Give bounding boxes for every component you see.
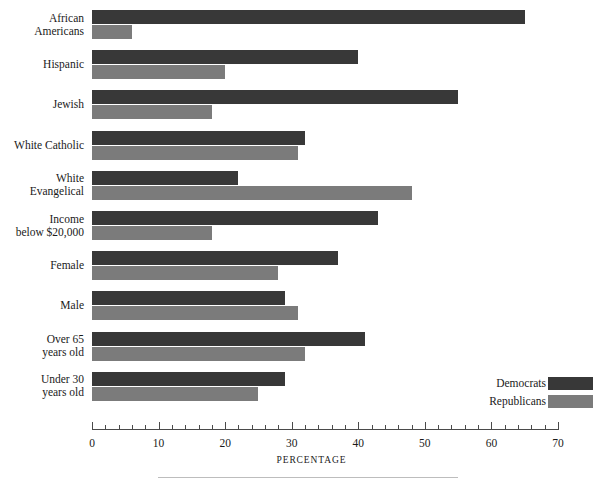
category-label: Hispanic (0, 58, 84, 71)
x-axis-minor-tick (372, 425, 373, 430)
x-axis-major-tick (358, 422, 359, 430)
x-axis-minor-tick (478, 425, 479, 430)
legend-label-republicans: Republicans (489, 394, 546, 408)
plot-area (92, 10, 558, 428)
x-axis-minor-tick (451, 425, 452, 430)
x-axis-minor-tick (132, 425, 133, 430)
category-label-line: Income (0, 213, 84, 226)
x-axis-minor-tick (238, 425, 239, 430)
x-axis-minor-tick (265, 425, 266, 430)
bar-republicans (92, 186, 412, 200)
bar-democrats (92, 50, 358, 64)
bar-democrats (92, 131, 305, 145)
x-axis-minor-tick (252, 425, 253, 430)
x-axis-minor-tick (518, 425, 519, 430)
x-axis-title-text: PERCENTAGE (263, 455, 347, 465)
bar-group (92, 251, 558, 285)
bar-republicans (92, 25, 132, 39)
bar-group (92, 211, 558, 245)
bar-democrats (92, 10, 525, 24)
x-axis-minor-tick (305, 425, 306, 430)
category-label-line: Female (0, 259, 84, 272)
bar-republicans (92, 266, 278, 280)
x-axis-minor-tick (172, 425, 173, 430)
x-axis-minor-tick (199, 425, 200, 430)
bar-democrats (92, 332, 365, 346)
bar-democrats (92, 251, 338, 265)
bar-group (92, 291, 558, 325)
bar-group (92, 131, 558, 165)
x-axis-line (92, 429, 558, 430)
x-axis-minor-tick (531, 425, 532, 430)
x-axis-minor-tick (412, 425, 413, 430)
category-label-line: Hispanic (0, 58, 84, 71)
category-label: Male (0, 299, 84, 312)
x-axis-minor-tick (545, 425, 546, 430)
category-label-line: White Catholic (0, 139, 84, 152)
x-axis-minor-tick (332, 425, 333, 430)
category-label: AfricanAmericans (0, 12, 84, 38)
bar-chart: AfricanAmericansHispanicJewishWhite Cath… (0, 0, 609, 487)
x-axis-minor-tick (465, 425, 466, 430)
legend-swatch-republicans (548, 395, 593, 408)
x-axis-tick-label: 60 (486, 437, 498, 449)
category-label-line: Evangelical (0, 185, 84, 198)
legend-item-democrats: Democrats (466, 376, 601, 391)
x-axis-tick-label: 40 (353, 437, 365, 449)
category-label-line: below $20,000 (0, 226, 84, 239)
legend-item-republicans: Republicans (466, 394, 601, 409)
category-label-line: Americans (0, 25, 84, 38)
bar-democrats (92, 90, 458, 104)
x-axis-major-tick (558, 422, 559, 430)
legend-label-democrats: Democrats (496, 376, 546, 390)
bar-democrats (92, 171, 238, 185)
category-label: Jewish (0, 98, 84, 111)
bar-democrats (92, 211, 378, 225)
x-axis-minor-tick (119, 425, 120, 430)
x-axis-major-tick (491, 422, 492, 430)
x-axis-minor-tick (318, 425, 319, 430)
category-label-line: years old (0, 346, 84, 359)
bar-republicans (92, 105, 212, 119)
category-label-line: African (0, 12, 84, 25)
category-label-line: Jewish (0, 98, 84, 111)
x-axis-minor-tick (438, 425, 439, 430)
chart-legend: Democrats Republicans (466, 376, 601, 412)
bar-group (92, 50, 558, 84)
x-axis-tick-label: 20 (219, 437, 231, 449)
bar-republicans (92, 226, 212, 240)
bar-group (92, 90, 558, 124)
x-axis-major-tick (159, 422, 160, 430)
x-axis-minor-tick (278, 425, 279, 430)
bar-group (92, 10, 558, 44)
category-label-line: Male (0, 299, 84, 312)
x-axis-major-tick (92, 422, 93, 430)
category-label: Over 65years old (0, 333, 84, 359)
bar-republicans (92, 347, 305, 361)
x-axis-minor-tick (345, 425, 346, 430)
x-axis-tick-label: 70 (552, 437, 564, 449)
bar-group (92, 332, 558, 366)
category-label: WhiteEvangelical (0, 172, 84, 198)
category-label-line: Over 65 (0, 333, 84, 346)
x-axis-minor-tick (505, 425, 506, 430)
x-axis-minor-tick (145, 425, 146, 430)
bar-democrats (92, 291, 285, 305)
x-axis-minor-tick (398, 425, 399, 430)
category-label: White Catholic (0, 139, 84, 152)
x-axis-minor-tick (385, 425, 386, 430)
x-axis-tick-label: 0 (89, 437, 95, 449)
x-axis-minor-tick (212, 425, 213, 430)
x-axis-major-tick (225, 422, 226, 430)
footer-rule (158, 477, 458, 478)
bar-republicans (92, 65, 225, 79)
bar-republicans (92, 146, 298, 160)
x-axis-title: PERCENTAGE (0, 455, 609, 465)
bar-group (92, 171, 558, 205)
x-axis-major-tick (425, 422, 426, 430)
x-axis-tick-label: 30 (286, 437, 298, 449)
x-axis-minor-tick (105, 425, 106, 430)
x-axis-tick-label: 10 (153, 437, 165, 449)
x-axis-major-tick (292, 422, 293, 430)
category-label: Under 30years old (0, 373, 84, 399)
